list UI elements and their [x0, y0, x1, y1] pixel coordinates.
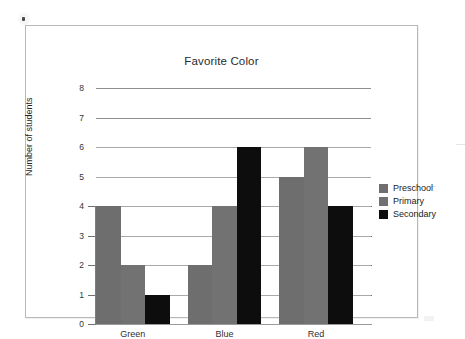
bar [188, 265, 213, 324]
legend-label: Preschool [393, 183, 433, 193]
legend-swatch-icon [379, 184, 388, 193]
bar [96, 206, 121, 324]
y-tick-label: 7 [64, 113, 84, 123]
paper-smudge [424, 316, 434, 321]
bar [145, 295, 170, 325]
legend-swatch-icon [379, 210, 388, 219]
legend-item[interactable]: Preschool [379, 183, 436, 193]
y-tick-label: 0 [64, 319, 84, 329]
y-tick-mark [88, 206, 95, 207]
y-tick-label: 5 [64, 172, 84, 182]
y-tick-mark [88, 236, 95, 237]
y-tick-label: 2 [64, 260, 84, 270]
chart-legend: PreschoolPrimarySecondary [379, 183, 436, 219]
bar [328, 206, 353, 324]
x-category-label: Blue [194, 329, 254, 339]
paper-smudge [456, 144, 465, 145]
chart-frame: Favorite Color Number of students 012345… [25, 25, 418, 318]
y-tick-label: 3 [64, 231, 84, 241]
y-tick-label: 6 [64, 142, 84, 152]
bar [304, 147, 329, 324]
y-tick-label: 8 [64, 83, 84, 93]
y-tick-mark [88, 324, 95, 325]
y-tick-mark [88, 265, 95, 266]
x-axis-line [95, 324, 372, 325]
y-tick-label: 4 [64, 201, 84, 211]
legend-item[interactable]: Secondary [379, 209, 436, 219]
y-axis-title: Number of students [24, 97, 34, 176]
bar [279, 177, 304, 325]
bar [212, 206, 237, 324]
scan-artifact-speck [22, 17, 25, 21]
legend-label: Secondary [393, 209, 436, 219]
plot-area [96, 88, 371, 324]
legend-item[interactable]: Primary [379, 196, 436, 206]
y-tick-mark [88, 295, 95, 296]
chart-title: Favorite Color [26, 55, 417, 67]
x-category-label: Green [103, 329, 163, 339]
bar [237, 147, 262, 324]
bar [121, 265, 146, 324]
legend-label: Primary [393, 196, 424, 206]
x-category-label: Red [286, 329, 346, 339]
y-tick-label: 1 [64, 290, 84, 300]
paper-smudge [430, 186, 436, 187]
legend-swatch-icon [379, 197, 388, 206]
